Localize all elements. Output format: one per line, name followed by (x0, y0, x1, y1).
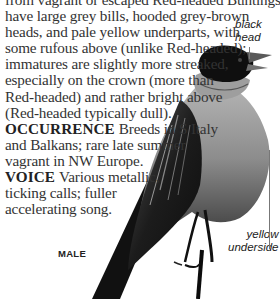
voice-line: ticking calls; fuller (5, 185, 280, 201)
annotation-text: underside (228, 241, 279, 254)
description-line: immatures are slightly more streaked, (5, 56, 280, 72)
annotation-yellow-underside: yellow underside (228, 228, 279, 254)
field-guide-page: from vagrant or escaped Red-headed Bunti… (0, 0, 280, 299)
description-line: especially on the crown (more than (5, 72, 280, 88)
annotation-text: head (235, 31, 262, 44)
annotation-black-head: black head (235, 18, 262, 44)
voice-section: VOICEVarious metallic, (5, 169, 280, 185)
occurrence-line: vagrant in NW Europe. (5, 153, 280, 169)
occurrence-heading: OCCURRENCE (5, 120, 115, 137)
leader-line-underside (269, 150, 270, 249)
occurrence-line: and Balkans; rare late summer (5, 137, 280, 153)
voice-text: Various metallic, (59, 168, 159, 185)
annotation-text: black (235, 18, 262, 31)
illustration-caption: MALE (58, 248, 86, 259)
occurrence-text: Breeds in S Italy (119, 120, 218, 137)
description-line: Red-headed) and rather bright above (5, 89, 280, 105)
leader-line-head (249, 47, 250, 59)
voice-heading: VOICE (5, 168, 55, 185)
voice-line: accelerating song. (5, 201, 280, 217)
occurrence-section: OCCURRENCEBreeds in S Italy (5, 121, 280, 137)
description-line: (Red-headed typically dull). (5, 105, 280, 121)
annotation-text: yellow (228, 228, 279, 241)
